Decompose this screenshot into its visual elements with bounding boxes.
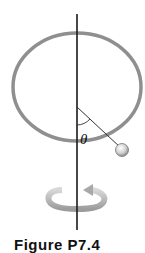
- angle-label: θ: [80, 131, 88, 147]
- bead: [116, 144, 129, 157]
- angle-arc: [77, 119, 90, 125]
- figure-caption: Figure P7.4: [14, 236, 100, 253]
